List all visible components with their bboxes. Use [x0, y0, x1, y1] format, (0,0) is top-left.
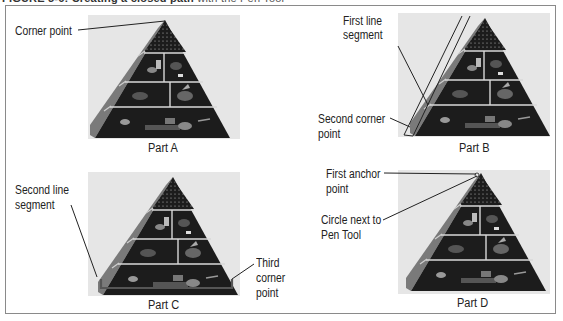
pyramid-c [98, 177, 238, 295]
callout-third-corner-point-3: point [256, 286, 278, 300]
callout-first-line-segment-1: First line [343, 14, 382, 28]
leader-second-line-segment [71, 205, 97, 277]
callout-second-corner-point-1: Second corner [318, 112, 385, 126]
callout-corner-point: Corner point [15, 24, 72, 38]
pyramid-b [410, 18, 550, 136]
leader-second-corner-point [390, 118, 410, 127]
part-b-label: Part B [459, 141, 490, 155]
leader-first-anchor-point [384, 173, 476, 174]
callout-first-line-segment-2: segment [343, 28, 383, 42]
callout-second-line-segment-1: Second line [15, 183, 69, 197]
callout-circle-pen-tool-2: Pen Tool [321, 228, 361, 242]
callout-third-corner-point-2: corner [256, 271, 285, 285]
pyramid-a [90, 20, 230, 138]
callout-first-anchor-point-2: point [326, 182, 348, 196]
callout-second-corner-point-2: point [318, 127, 340, 141]
part-d-label: Part D [457, 296, 488, 310]
part-c-label: Part C [148, 298, 179, 312]
leader-third-corner-point [232, 264, 254, 279]
callout-third-corner-point-1: Third [256, 256, 280, 270]
leader-corner-point [78, 21, 165, 30]
callout-circle-pen-tool-1: Circle next to [321, 213, 381, 227]
callout-first-anchor-point-1: First anchor [326, 167, 380, 181]
pyramid-d [406, 173, 546, 291]
callout-second-line-segment-2: segment [15, 198, 55, 212]
leader-first-line-segment [398, 46, 428, 105]
part-a-label: Part A [148, 141, 178, 155]
